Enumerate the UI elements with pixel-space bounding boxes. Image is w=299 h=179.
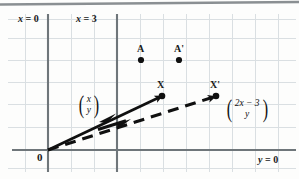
left-vector-top: x: [87, 94, 91, 105]
dot-X: [159, 93, 166, 100]
dot-A-prime: [176, 57, 182, 63]
label-point-X: X: [157, 80, 164, 90]
label-x-equals-0: x = 0: [18, 14, 39, 24]
column-vector-image: ( 2x − 3 y ): [225, 98, 269, 120]
left-vector-stack: x y: [86, 94, 92, 116]
label-y-equals-0: y = 0: [258, 155, 278, 165]
dot-X-prime: [213, 93, 220, 100]
label-origin: 0: [37, 152, 43, 163]
vector-OX-prime: [48, 98, 212, 151]
dot-A: [138, 57, 144, 63]
column-vector-object: ( x y ): [77, 94, 101, 116]
math-figure-stretch-diagram: x = 0 x = 3 y = 0 0 A A' X X' ( x y ) ( …: [0, 0, 299, 179]
label-point-A-prime: A': [174, 44, 184, 54]
paren-open-left-vector: (: [79, 94, 84, 115]
paren-open-right-vector: (: [227, 98, 232, 119]
paren-close-left-vector: ): [94, 94, 99, 115]
page-top-rule: [0, 2, 299, 5]
figure-canvas: [0, 0, 299, 179]
left-vector-bottom: y: [87, 105, 91, 116]
right-vector-top: 2x − 3: [235, 98, 260, 109]
point-dots: [138, 57, 219, 99]
label-x-equals-3: x = 3: [76, 14, 97, 24]
vector-OX: [48, 98, 159, 151]
right-vector-stack: 2x − 3 y: [234, 98, 261, 120]
paren-close-right-vector: ): [262, 98, 267, 119]
label-point-X-prime: X': [210, 80, 220, 90]
label-point-A: A: [137, 44, 144, 54]
right-vector-bottom: y: [245, 109, 249, 120]
